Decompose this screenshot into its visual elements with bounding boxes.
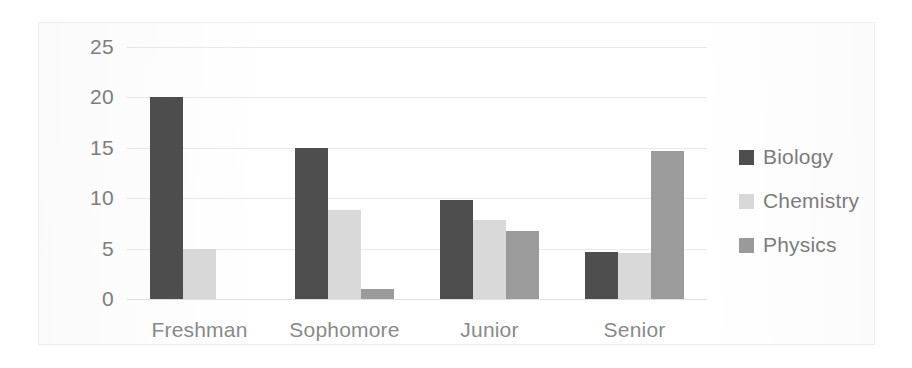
gridline [127,299,707,300]
legend-label: Physics [763,233,837,257]
legend-swatch-icon [739,238,754,253]
bar-group: Sophomore [272,47,417,299]
legend-label: Chemistry [763,189,859,213]
legend-swatch-icon [739,194,754,209]
bar-junior-chemistry [473,220,506,299]
legend-item-chemistry: Chemistry [739,179,859,223]
y-axis-tick-label: 0 [102,287,114,311]
legend-item-physics: Physics [739,223,859,267]
bar-senior-physics [651,151,684,299]
y-axis-tick-label: 25 [90,35,114,59]
legend-label: Biology [763,145,833,169]
x-axis-tick-label: Freshman [127,318,272,342]
bar-senior-biology [585,252,618,299]
bar-sophomore-chemistry [328,210,361,299]
plot-area: 0510152025FreshmanSophomoreJuniorSenior [127,47,707,299]
legend-swatch-icon [739,150,754,165]
chart-legend: BiologyChemistryPhysics [739,135,859,267]
chart-frame: 0510152025FreshmanSophomoreJuniorSenior … [38,22,875,345]
x-axis-tick-label: Senior [562,318,707,342]
bar-sophomore-biology [295,148,328,299]
bar-group: Senior [562,47,707,299]
bar-sophomore-physics [361,289,394,299]
bar-group: Freshman [127,47,272,299]
x-axis-tick-label: Sophomore [272,318,417,342]
y-axis-tick-label: 20 [90,85,114,109]
bar-junior-biology [440,200,473,299]
x-axis-tick-label: Junior [417,318,562,342]
bar-junior-physics [506,231,539,299]
bar-freshman-chemistry [183,249,216,299]
bar-senior-chemistry [618,253,651,299]
y-axis-tick-label: 10 [90,186,114,210]
y-axis-tick-label: 15 [90,136,114,160]
legend-item-biology: Biology [739,135,859,179]
y-axis-tick-label: 5 [102,237,114,261]
bar-group: Junior [417,47,562,299]
bar-freshman-biology [150,97,183,299]
